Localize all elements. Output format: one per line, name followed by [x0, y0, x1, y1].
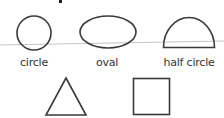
cropped-title-fragment [59, 0, 62, 3]
oval-label: oval [96, 57, 118, 69]
triangle-shape [46, 78, 86, 115]
square-shape [134, 79, 170, 115]
horizontal-rule [0, 41, 224, 45]
half-circle-shape [164, 18, 215, 48]
shapes-diagram: circle oval half circle [0, 0, 224, 118]
circle-shape [17, 16, 51, 50]
circle-label: circle [20, 57, 48, 69]
half-circle-label: half circle [163, 57, 214, 69]
